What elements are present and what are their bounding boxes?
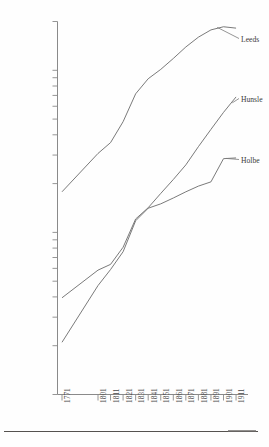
x-axis-tick-labels: 1771180118111821183118411851186118711881… (0, 0, 269, 447)
chart-figure: 1,0002,0003,0004,0005,0006,0007,0008,000… (0, 0, 269, 447)
page-divider-thick-segment (228, 430, 256, 432)
x-axis-tick-label: 1851 (164, 388, 171, 403)
series-label-hunslet: Hunsle (241, 96, 263, 104)
x-axis-tick-label: 1821 (127, 388, 134, 403)
x-axis-tick-label: 1841 (152, 388, 159, 403)
series-label-leeds: Leeds (241, 36, 259, 44)
x-axis-tick-label: 1911 (239, 388, 246, 403)
x-axis-tick-label: 1881 (202, 388, 209, 403)
x-axis-tick-label: 1861 (177, 388, 184, 403)
x-axis-tick-label: 1771 (65, 388, 72, 403)
x-axis-tick-label: 1831 (139, 388, 146, 403)
x-axis-tick-label: 1891 (214, 388, 221, 403)
x-axis-tick-label: 1871 (189, 388, 196, 403)
x-axis-tick-label: 1901 (227, 388, 234, 403)
series-label-holbeck: Holbe (241, 157, 260, 165)
x-axis-tick-label: 1811 (114, 388, 121, 403)
x-axis-tick-label: 1801 (101, 388, 108, 403)
page-divider-rule (4, 431, 258, 432)
